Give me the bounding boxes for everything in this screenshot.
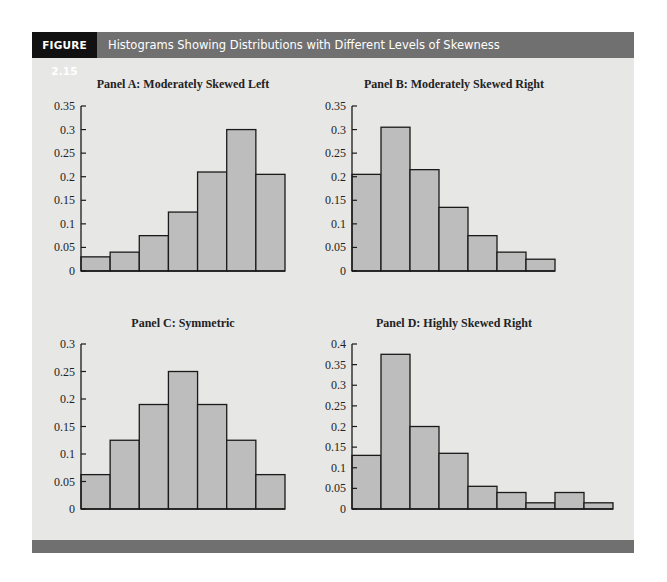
- histogram-bar: [139, 236, 168, 271]
- histogram-panel-b: Panel B: Moderately Skewed Right00.050.1…: [325, 77, 555, 278]
- y-tick-label: 0.1: [60, 447, 75, 461]
- y-tick-label: 0.35: [325, 358, 346, 372]
- y-tick-label: 0.25: [54, 365, 75, 379]
- y-tick-label: 0.25: [325, 146, 346, 160]
- y-tick-label: 0.15: [54, 193, 75, 207]
- histogram-bar: [410, 427, 439, 510]
- y-tick-label: 0.2: [60, 392, 75, 406]
- y-tick-label: 0.35: [325, 99, 346, 113]
- histogram-panel-c: Panel C: Symmetric00.050.10.150.20.250.3: [54, 316, 285, 516]
- histogram-bar: [81, 257, 110, 271]
- y-tick-label: 0.4: [331, 337, 346, 351]
- histogram-bar: [352, 174, 381, 271]
- y-tick-label: 0: [69, 264, 75, 278]
- histogram-bar: [439, 453, 468, 509]
- histogram-bar: [439, 207, 468, 271]
- y-tick-label: 0: [340, 264, 346, 278]
- y-tick-label: 0.05: [325, 481, 346, 495]
- histogram-bar: [468, 236, 497, 271]
- histogram-bar: [256, 475, 285, 509]
- y-tick-label: 0: [340, 502, 346, 516]
- y-tick-label: 0.2: [331, 420, 346, 434]
- y-tick-label: 0.3: [60, 337, 75, 351]
- histogram-bar: [526, 503, 555, 509]
- y-tick-label: 0.05: [325, 240, 346, 254]
- y-tick-label: 0.1: [331, 217, 346, 231]
- histogram-bar: [227, 130, 256, 271]
- histogram-bar: [497, 493, 526, 510]
- histogram-bar: [198, 405, 227, 510]
- y-tick-label: 0.15: [325, 440, 346, 454]
- histogram-bar: [555, 493, 584, 510]
- histogram-bar: [256, 174, 285, 271]
- histogram-panel-d: Panel D: Highly Skewed Right00.050.10.15…: [325, 316, 613, 516]
- y-tick-label: 0: [69, 502, 75, 516]
- histogram-bar: [526, 259, 555, 271]
- y-tick-label: 0.15: [325, 193, 346, 207]
- y-tick-label: 0.3: [60, 123, 75, 137]
- histogram-bar: [410, 170, 439, 271]
- histogram-bar: [381, 354, 410, 509]
- histogram-bar: [81, 475, 110, 509]
- histogram-bar: [110, 440, 139, 509]
- histogram-bar: [198, 172, 227, 271]
- histogram-panel-a: Panel A: Moderately Skewed Left00.050.10…: [54, 77, 285, 278]
- panel-title: Panel C: Symmetric: [131, 316, 235, 330]
- y-tick-label: 0.1: [60, 217, 75, 231]
- y-tick-label: 0.3: [331, 378, 346, 392]
- histogram-grid: Panel A: Moderately Skewed Left00.050.10…: [0, 0, 667, 582]
- histogram-bar: [227, 440, 256, 509]
- y-tick-label: 0.3: [331, 123, 346, 137]
- histogram-bar: [168, 372, 197, 510]
- y-tick-label: 0.15: [54, 420, 75, 434]
- y-tick-label: 0.25: [54, 146, 75, 160]
- histogram-bar: [139, 405, 168, 510]
- y-tick-label: 0.2: [331, 170, 346, 184]
- y-tick-label: 0.05: [54, 240, 75, 254]
- panel-title: Panel B: Moderately Skewed Right: [364, 77, 544, 91]
- y-tick-label: 0.2: [60, 170, 75, 184]
- panel-title: Panel D: Highly Skewed Right: [376, 316, 532, 330]
- histogram-bar: [110, 252, 139, 271]
- histogram-bar: [497, 252, 526, 271]
- y-tick-label: 0.25: [325, 399, 346, 413]
- y-tick-label: 0.05: [54, 475, 75, 489]
- histogram-bar: [381, 127, 410, 271]
- histogram-bar: [584, 503, 613, 509]
- panel-title: Panel A: Moderately Skewed Left: [97, 77, 270, 91]
- histogram-bar: [468, 486, 497, 509]
- y-tick-label: 0.35: [54, 99, 75, 113]
- y-tick-label: 0.1: [331, 461, 346, 475]
- histogram-bar: [352, 455, 381, 509]
- histogram-bar: [168, 212, 197, 271]
